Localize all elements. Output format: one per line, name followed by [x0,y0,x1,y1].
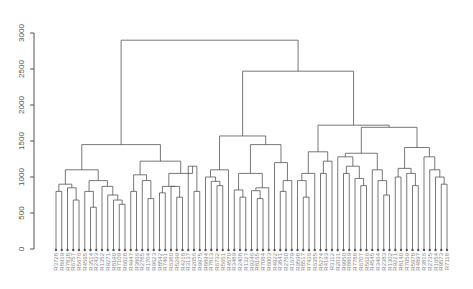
leaf-marker [314,249,316,251]
leaf-marker [199,249,201,251]
dendrogram-tree [56,40,447,249]
y-tick-label: 500 [17,206,26,220]
leaf-marker [107,249,109,251]
leaf-marker [256,249,258,251]
leaf-marker [170,249,172,251]
leaf-marker [400,249,402,251]
leaf-marker [417,249,419,251]
leaf-marker [118,249,120,251]
leaf-marker [250,249,252,251]
y-tick-label: 3000 [17,24,26,42]
leaf-marker [337,249,339,251]
leaf-marker [383,249,385,251]
leaf-marker [377,249,379,251]
leaf-marker [233,249,235,251]
leaf-marker [440,249,442,251]
leaf-marker [89,249,91,251]
leaf-marker [273,249,275,251]
leaf-marker [130,249,132,251]
leaf-marker [61,249,63,251]
leaf-marker [360,249,362,251]
leaf-marker [147,249,149,251]
leaf-marker [153,249,155,251]
leaf-marker [331,249,333,251]
leaf-marker [342,249,344,251]
leaf-marker [141,249,143,251]
leaf-marker [124,249,126,251]
y-tick-label: 2500 [17,60,26,78]
leaf-marker [319,249,321,251]
y-tick-label: 2000 [17,96,26,114]
leaf-marker [187,249,189,251]
leaf-marker [411,249,413,251]
leaf-marker [394,249,396,251]
leaf-marker [66,249,68,251]
leaf-marker [296,249,298,251]
leaf-marker [434,249,436,251]
leaf-marker [239,249,241,251]
leaf-marker [216,249,218,251]
leaf-marker [388,249,390,251]
dendrogram-chart: 050010001500200025003000 R3728R8919R7838… [0,0,473,289]
leaf-marker [291,249,293,251]
leaf-marker [176,249,178,251]
leaf-labels: R3728R8919R7838R6757R5676R4595R3514R2433… [53,249,450,271]
leaf-marker [210,249,212,251]
leaf-marker [193,249,195,251]
leaf-marker [429,249,431,251]
leaf-marker [365,249,367,251]
y-tick-label: 1000 [17,168,26,186]
leaf-marker [262,249,264,251]
y-tick-label: 0 [17,246,26,251]
leaf-label: R7118 [444,252,450,270]
leaf-marker [55,249,57,251]
leaf-marker [84,249,86,251]
leaf-marker [354,249,356,251]
leaf-marker [72,249,74,251]
leaf-marker [222,249,224,251]
leaf-marker [348,249,350,251]
y-tick-label: 1500 [17,132,26,150]
leaf-marker [135,249,137,251]
leaf-marker [158,249,160,251]
leaf-marker [112,249,114,251]
leaf-marker [308,249,310,251]
leaf-marker [204,249,206,251]
leaf-marker [406,249,408,251]
leaf-marker [285,249,287,251]
leaf-marker [423,249,425,251]
leaf-marker [181,249,183,251]
leaf-marker [245,249,247,251]
leaf-marker [95,249,97,251]
leaf-marker [164,249,166,251]
leaf-marker [101,249,103,251]
leaf-marker [302,249,304,251]
leaf-marker [325,249,327,251]
y-axis: 050010001500200025003000 [17,24,34,252]
leaf-marker [268,249,270,251]
leaf-marker [371,249,373,251]
leaf-marker [279,249,281,251]
leaf-marker [227,249,229,251]
leaf-marker [78,249,80,251]
leaf-marker [446,249,448,251]
